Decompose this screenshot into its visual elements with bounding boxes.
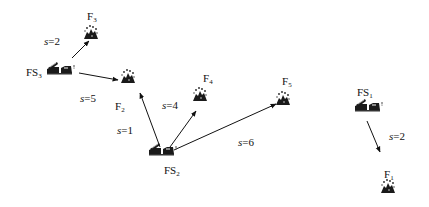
label-fs1: FS1 xyxy=(357,86,373,102)
edge-label-fs2-f4: s=4 xyxy=(162,99,178,111)
edge-fs3-f2 xyxy=(79,73,118,80)
edge-fs1-f1 xyxy=(367,121,380,152)
diagram-canvas xyxy=(0,0,429,207)
label-f4: F4 xyxy=(203,72,213,88)
fire-icon-f2 xyxy=(121,69,135,83)
edge-fs3-f3 xyxy=(72,41,89,58)
edge-label-fs3-f2: s=5 xyxy=(80,92,96,104)
edge-label-fs1-f1: s=2 xyxy=(389,130,405,142)
label-fs2: FS2 xyxy=(164,164,180,180)
label-f3: F3 xyxy=(87,10,97,26)
fire-icon-f4 xyxy=(193,87,207,101)
edge-label-fs2-f5: s=6 xyxy=(238,136,254,148)
fire-truck-icon-fs2 xyxy=(149,143,177,156)
edge-fs2-f2 xyxy=(140,93,160,147)
fire-icon-f5 xyxy=(276,91,290,105)
label-f1: F1 xyxy=(384,168,394,184)
edge-label-fs3-f3: s=2 xyxy=(44,35,60,47)
label-f2: F2 xyxy=(115,100,125,116)
fire-icon-f3 xyxy=(84,25,98,39)
edge-fs2-f5 xyxy=(174,104,276,150)
edge-label-fs2-f2: s=1 xyxy=(117,124,133,136)
label-f5: F5 xyxy=(282,75,292,91)
label-fs3: FS3 xyxy=(26,66,42,82)
fire-truck-icon-fs3 xyxy=(47,62,75,75)
